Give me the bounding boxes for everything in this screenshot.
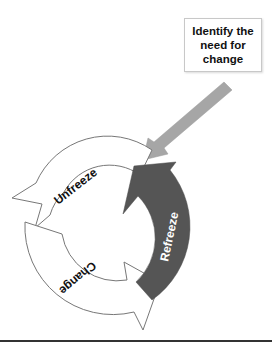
change-cycle-diagram: Unfreeze Change Refreeze — [0, 0, 272, 351]
bottom-divider — [0, 340, 272, 342]
input-arrow — [143, 82, 232, 160]
